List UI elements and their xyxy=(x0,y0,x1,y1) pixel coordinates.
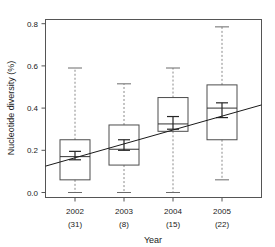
y-tick-label-3: 0.6 xyxy=(27,62,39,71)
y-tick-label-2: 0.4 xyxy=(27,104,39,113)
x-sample-size-2002: (31) xyxy=(68,220,83,229)
y-tick-label-0: 0.0 xyxy=(27,189,39,198)
x-tick-label-2002: 2002 xyxy=(66,207,84,216)
regression-trend-line xyxy=(46,105,262,166)
x-sample-size-2004: (15) xyxy=(166,220,181,229)
x-axis-title: Year xyxy=(144,235,162,245)
chart-canvas: 0.0 0.2 0.4 0.6 0.8 Nucleotide diversity… xyxy=(0,0,275,247)
x-category-labels: 2002 2003 2004 2005 (31) (8) (15) (22) xyxy=(66,207,231,229)
x-axis xyxy=(75,198,222,202)
x-sample-size-2005: (22) xyxy=(215,220,230,229)
boxplot-figure: 0.0 0.2 0.4 0.6 0.8 Nucleotide diversity… xyxy=(0,0,275,247)
box-plot-2002 xyxy=(60,68,90,192)
y-axis: 0.0 0.2 0.4 0.6 0.8 xyxy=(27,20,46,198)
y-axis-title: Nucleotide diversity (%) xyxy=(6,61,16,156)
y-tick-label-4: 0.8 xyxy=(27,20,39,29)
x-sample-size-2003: (8) xyxy=(119,220,129,229)
y-tick-label-1: 0.2 xyxy=(27,146,39,155)
x-tick-label-2003: 2003 xyxy=(115,207,133,216)
box-plots-layer xyxy=(60,27,237,193)
trend-line-layer xyxy=(46,105,262,166)
x-tick-label-2005: 2005 xyxy=(213,207,231,216)
box-plot-2005 xyxy=(207,27,237,180)
box-plot-2003 xyxy=(109,84,139,193)
x-tick-label-2004: 2004 xyxy=(164,207,182,216)
